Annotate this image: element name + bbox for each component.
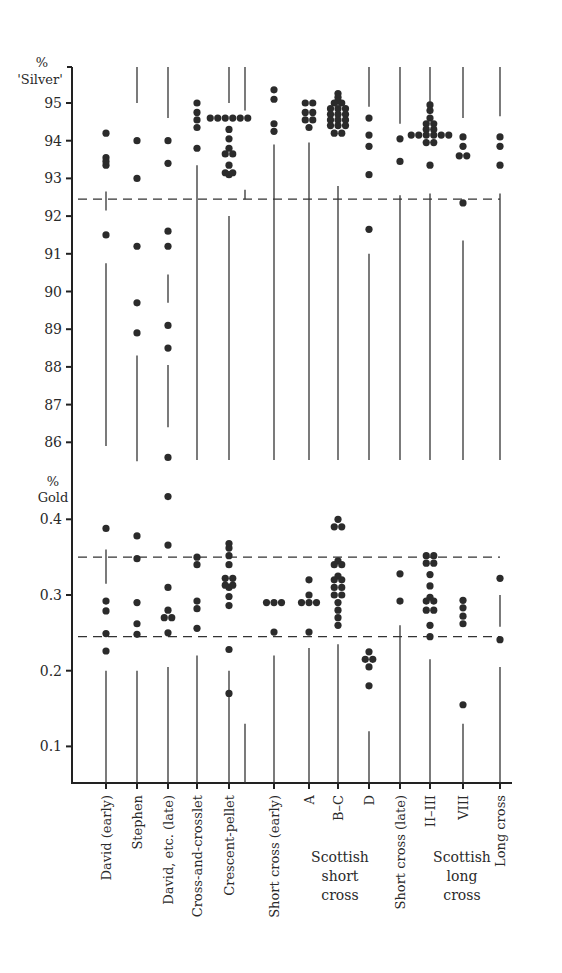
gold-data-point: [338, 576, 345, 583]
silver-data-point: [459, 143, 466, 150]
silver-data-point: [193, 99, 200, 106]
gold-data-point: [164, 541, 171, 548]
gold-data-point: [193, 625, 200, 632]
silver-data-point: [365, 171, 372, 178]
silver-data-point: [193, 116, 200, 123]
category-label: A: [302, 794, 317, 805]
silver-data-point: [133, 329, 140, 336]
gold-data-point: [305, 576, 312, 583]
category-label: Cross-and-crosslet: [190, 794, 205, 917]
silver-data-point: [426, 162, 433, 169]
gold-data-point: [102, 647, 109, 654]
silver-data-point: [426, 107, 433, 114]
silver-data-point: [309, 99, 316, 106]
gold-data-point: [229, 575, 236, 582]
silver-data-point: [396, 135, 403, 142]
silver-data-point: [237, 114, 244, 121]
gold-data-point: [423, 607, 430, 614]
category-label: Crescent-pellet: [222, 794, 237, 896]
gold-data-point: [263, 599, 270, 606]
silver-data-point: [229, 150, 236, 157]
silver-tick-label: 92: [44, 208, 62, 224]
silver-data-point: [225, 162, 232, 169]
gold-data-point: [396, 570, 403, 577]
category-label: Long cross: [493, 795, 508, 867]
gold-data-point: [459, 597, 466, 604]
gold-data-point: [225, 646, 232, 653]
silver-data-point: [270, 86, 277, 93]
silver-data-point: [302, 99, 309, 106]
gold-data-point: [102, 607, 109, 614]
gold-data-point: [334, 607, 341, 614]
gold-tick-label: 0.2: [40, 663, 62, 679]
gold-data-point: [225, 561, 232, 568]
silver-data-point: [164, 454, 171, 461]
silver-data-point: [164, 137, 171, 144]
labels: David (early)StephenDavid, etc. (late)Cr…: [99, 794, 508, 918]
gold-data-point: [225, 602, 232, 609]
silver-data-point: [164, 160, 171, 167]
gold-tick-label: 0.1: [40, 738, 62, 754]
silver-data-point: [225, 135, 232, 142]
gold-data-point: [365, 663, 372, 670]
category-label: David (early): [99, 795, 114, 880]
gold-data-point: [222, 582, 229, 589]
gold-data-point: [338, 584, 345, 591]
gold-data-point: [270, 628, 277, 635]
silver-data-point: [193, 145, 200, 152]
gold-data-point: [496, 575, 503, 582]
gold-data-point: [331, 584, 338, 591]
group-label: cross: [443, 887, 480, 903]
gold-data-point: [222, 575, 229, 582]
silver-data-point: [415, 131, 422, 138]
silver-data-point: [225, 126, 232, 133]
gold-data-point: [430, 607, 437, 614]
silver-data-point: [229, 169, 236, 176]
gold-data-point: [430, 597, 437, 604]
category-label: David, etc. (late): [161, 795, 176, 905]
silver-data-point: [133, 137, 140, 144]
gold-data-point: [331, 561, 338, 568]
gold-data-point: [133, 555, 140, 562]
gold-data-point: [331, 576, 338, 583]
silver-data-point: [327, 122, 334, 129]
gold-data-point: [305, 599, 312, 606]
gold-data-point: [225, 593, 232, 600]
gold-data-point: [102, 525, 109, 532]
silver-data-point: [408, 131, 415, 138]
silver-data-point: [193, 109, 200, 116]
category-label: B–C: [331, 795, 346, 821]
gold-data-point: [426, 633, 433, 640]
silver-data-point: [207, 114, 214, 121]
silver-data-point: [365, 143, 372, 150]
gold-data-point: [338, 591, 345, 598]
gold-data-point: [164, 493, 171, 500]
silver-data-point: [133, 175, 140, 182]
silver-data-point: [133, 243, 140, 250]
category-label: Stephen: [130, 794, 145, 849]
gold-data-point: [161, 614, 168, 621]
silver-data-point: [496, 162, 503, 169]
silver-data-point: [214, 114, 221, 121]
gold-data-point: [313, 599, 320, 606]
silver-data-point: [496, 133, 503, 140]
gold-data-point: [426, 571, 433, 578]
group-label: cross: [321, 887, 358, 903]
gold-data-point: [102, 630, 109, 637]
category-label: Short cross (late): [393, 795, 408, 909]
gold-data-point: [225, 690, 232, 697]
silver-data-point: [133, 299, 140, 306]
gold-axis-title: Gold: [38, 490, 69, 505]
gold-data-point: [334, 516, 341, 523]
silver-data-point: [193, 124, 200, 131]
gold-data-point: [331, 523, 338, 530]
gold-data-point: [334, 622, 341, 629]
silver-tick-label: 90: [44, 284, 62, 300]
silver-tick-label: 87: [44, 397, 62, 413]
gold-data-point: [459, 604, 466, 611]
gold-data-point: [305, 628, 312, 635]
category-label: D: [362, 795, 377, 805]
gold-data-point: [164, 584, 171, 591]
silver-tick-label: 93: [44, 170, 62, 186]
silver-data-point: [305, 124, 312, 131]
